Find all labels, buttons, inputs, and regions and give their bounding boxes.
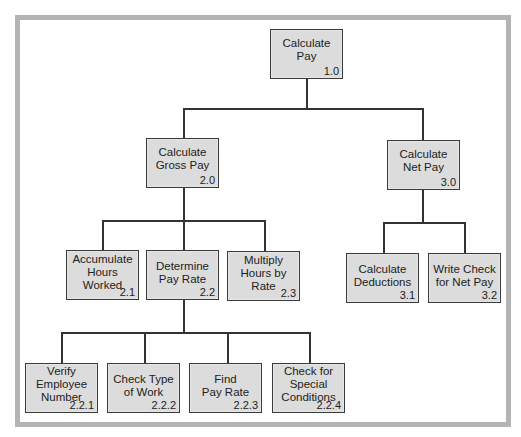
connector (306, 78, 308, 109)
node-label: Determine Pay Rate (147, 260, 218, 286)
connector (383, 222, 385, 253)
node-number: 3.1 (400, 289, 415, 301)
connector (102, 220, 265, 222)
node-number: 2.2.3 (234, 399, 258, 411)
node-accumulate-hours-worked: Accumulate Hours Worked 2.1 (66, 250, 139, 300)
connector (227, 332, 229, 363)
node-number: 2.2.1 (70, 399, 94, 411)
node-write-check-for-net-pay: Write Check for Net Pay 3.2 (428, 253, 501, 303)
node-label: Write Check for Net Pay (429, 263, 500, 289)
connector (183, 108, 423, 110)
node-number: 2.2.2 (152, 399, 176, 411)
node-verify-employee-number: Verify Employee Number 2.2.1 (25, 363, 98, 413)
connector (464, 222, 466, 253)
connector (61, 332, 310, 334)
node-multiply-hours-by-rate: Multiply Hours by Rate 2.3 (227, 251, 300, 301)
node-number: 2.1 (120, 286, 135, 298)
node-label: Calculate Net Pay (388, 148, 459, 174)
node-label: Find Pay Rate (190, 373, 261, 399)
connector (309, 332, 311, 363)
node-check-type-of-work: Check Type of Work 2.2.2 (107, 363, 180, 413)
node-calculate-deductions: Calculate Deductions 3.1 (346, 253, 419, 303)
node-number: 2.2.4 (317, 399, 341, 411)
node-label: Check Type of Work (108, 373, 179, 399)
connector (102, 220, 104, 251)
node-check-for-special-conditions: Check for Special Conditions 2.2.4 (272, 363, 345, 413)
connector (264, 220, 266, 251)
node-number: 3.0 (441, 176, 456, 188)
connector (144, 332, 146, 363)
node-calculate-net-pay: Calculate Net Pay 3.0 (387, 140, 460, 190)
node-calculate-gross-pay: Calculate Gross Pay 2.0 (146, 138, 219, 188)
node-determine-pay-rate: Determine Pay Rate 2.2 (146, 250, 219, 300)
connector (183, 299, 185, 333)
hierarchy-chart: Calculate Pay 1.0 Calculate Gross Pay 2.… (0, 0, 521, 437)
connector (383, 222, 465, 224)
node-label: Calculate Pay (271, 37, 342, 63)
node-find-pay-rate: Find Pay Rate 2.2.3 (189, 363, 262, 413)
node-label: Calculate Gross Pay (147, 146, 218, 172)
connector (422, 189, 424, 222)
node-number: 1.0 (324, 65, 339, 77)
node-label: Calculate Deductions (347, 263, 418, 289)
connector (183, 108, 185, 139)
connector (183, 187, 185, 251)
node-number: 2.3 (281, 287, 296, 299)
node-number: 2.0 (200, 174, 215, 186)
node-calculate-pay: Calculate Pay 1.0 (270, 29, 343, 79)
connector (422, 108, 424, 141)
connector (61, 332, 63, 363)
node-number: 3.2 (482, 289, 497, 301)
node-number: 2.2 (200, 286, 215, 298)
